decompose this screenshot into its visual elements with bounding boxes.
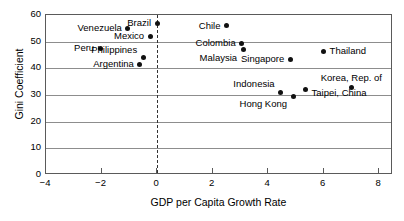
data-point-label: Korea, Rep. of: [321, 73, 382, 83]
data-point-label: Hong Kong: [240, 100, 288, 110]
x-tick-8: [378, 168, 379, 174]
data-point-label: Mexico: [114, 32, 144, 42]
x-tick-label-2: 2: [197, 178, 227, 188]
data-point-label: Indonesia: [233, 80, 274, 90]
x-tick-4: [267, 168, 268, 174]
data-point-dot: [148, 34, 153, 39]
data-point-dot: [291, 94, 296, 99]
x-tick-0: [156, 168, 157, 174]
y-tick-label-60: 60: [1, 9, 41, 19]
data-point-label: Colombia: [196, 38, 236, 48]
x-tick-label--2: −2: [86, 178, 116, 188]
x-tick-label--4: −4: [30, 178, 60, 188]
data-point-label: Malaysia: [200, 53, 238, 63]
x-tick--4: [45, 168, 46, 174]
data-point-dot: [241, 47, 246, 52]
x-tick-label-0: 0: [141, 178, 171, 188]
x-tick-label-6: 6: [308, 178, 338, 188]
data-point-label: Thailand: [330, 46, 366, 56]
plot-area: VenezuelaBrazilMexicoPeruPhilippinesArge…: [45, 14, 392, 174]
data-point-label: Taipei, China: [312, 88, 367, 98]
y-axis-tick-labels: 0102030405060: [0, 14, 41, 174]
data-point-dot: [239, 41, 244, 46]
data-point-dot: [141, 55, 146, 60]
data-point-dot: [321, 49, 326, 54]
gridline-y-10: [46, 148, 391, 149]
data-point-dot: [137, 62, 142, 67]
x-tick-2: [212, 168, 213, 174]
y-tick-label-30: 30: [1, 89, 41, 99]
y-tick-label-10: 10: [1, 143, 41, 153]
y-tick-label-20: 20: [1, 116, 41, 126]
data-point-dot: [288, 57, 293, 62]
data-point-dot: [278, 90, 283, 95]
gridline-y-20: [46, 122, 391, 123]
x-tick-label-4: 4: [252, 178, 282, 188]
data-point-dot: [303, 87, 308, 92]
x-tick--2: [101, 168, 102, 174]
y-tick-label-40: 40: [1, 63, 41, 73]
x-tick-6: [323, 168, 324, 174]
zero-growth-dashed-line: [157, 15, 158, 173]
data-point-dot: [349, 85, 354, 90]
data-point-label: Chile: [199, 21, 221, 31]
data-point-label: Philippines: [91, 45, 137, 55]
data-point-label: Argentina: [93, 60, 134, 70]
data-point-label: Brazil: [127, 18, 151, 28]
scatter-chart: Gini Coefficient 0102030405060 Venezuela…: [0, 0, 404, 221]
data-point-dot: [155, 21, 160, 26]
x-tick-label-8: 8: [363, 178, 393, 188]
x-axis-title: GDP per Capita Growth Rate: [45, 196, 392, 208]
data-point-label: Singapore: [241, 54, 284, 64]
data-point-dot: [224, 23, 229, 28]
y-tick-label-50: 50: [1, 36, 41, 46]
